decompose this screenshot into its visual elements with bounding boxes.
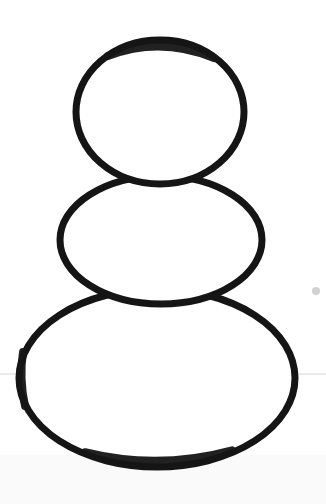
snowman-drawing (0, 0, 326, 504)
torso-ball (60, 176, 262, 304)
base-ball (19, 289, 295, 467)
image-canvas: Three stacked ellipses forming a snowman… (0, 0, 326, 504)
paper-speck (312, 287, 320, 295)
base-left-stroke-accent (21, 352, 25, 406)
head-ball (76, 40, 244, 184)
